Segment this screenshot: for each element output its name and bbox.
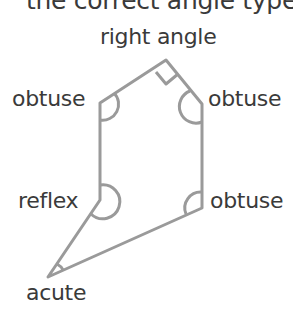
- angle-arc-reflex: [91, 185, 120, 219]
- label-obtuse-lower-right: obtuse: [210, 188, 283, 213]
- label-obtuse-upper-right: obtuse: [208, 86, 281, 111]
- label-acute: acute: [26, 280, 86, 305]
- label-obtuse-upper-left: obtuse: [12, 86, 85, 111]
- right-angle-marker: [156, 72, 178, 84]
- angle-arc-acute: [57, 264, 63, 270]
- angle-arc-upper-right: [179, 91, 202, 123]
- label-right-angle: right angle: [100, 24, 216, 49]
- label-reflex: reflex: [18, 188, 78, 213]
